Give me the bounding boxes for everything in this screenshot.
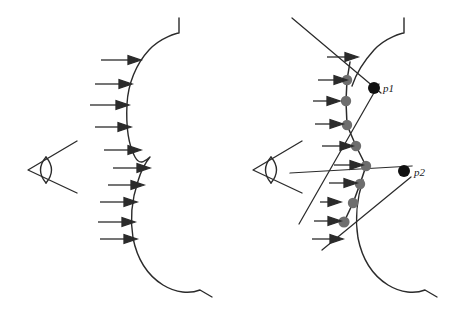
sample-point (361, 161, 371, 171)
ray-arrow (320, 198, 341, 207)
ray-arrow (108, 181, 144, 190)
sample-point (355, 179, 365, 189)
eye-icon (28, 141, 77, 193)
eye-icon (253, 141, 302, 193)
ray-arrow (95, 123, 131, 132)
ray-arrow (322, 142, 353, 151)
ray-arrow (100, 235, 137, 244)
technical-diagram: p1 p2 (0, 0, 454, 315)
ray-arrow (318, 76, 347, 85)
residual-surface-curve (352, 18, 437, 297)
sample-point (341, 96, 351, 106)
ray-arrow (101, 56, 141, 65)
ray-arrow (100, 198, 137, 207)
ray-arrow (98, 218, 135, 227)
sample-point (348, 198, 358, 208)
silhouette-point-group (368, 82, 410, 177)
discretized-surface-panel: p1 p2 (253, 18, 437, 297)
ray-arrow (90, 101, 129, 110)
sample-point-group (338, 75, 371, 228)
sample-point (338, 216, 349, 227)
ray-arrow (95, 80, 132, 89)
ray-arrow (313, 97, 340, 106)
ray-arrow (334, 161, 363, 170)
ray-arrow (315, 120, 343, 129)
silhouette-point-p1 (368, 82, 380, 94)
smooth-surface-panel (28, 18, 212, 297)
ray-arrow (329, 179, 357, 188)
figure-root: p1 p2 (0, 0, 454, 315)
label-p1: p1 (382, 82, 394, 94)
ray-arrow (314, 217, 341, 226)
ray-arrow (104, 146, 141, 155)
sample-point (342, 120, 352, 130)
ray-group (90, 56, 150, 244)
label-p2: p2 (413, 166, 426, 178)
silhouette-point-p2 (398, 165, 410, 177)
